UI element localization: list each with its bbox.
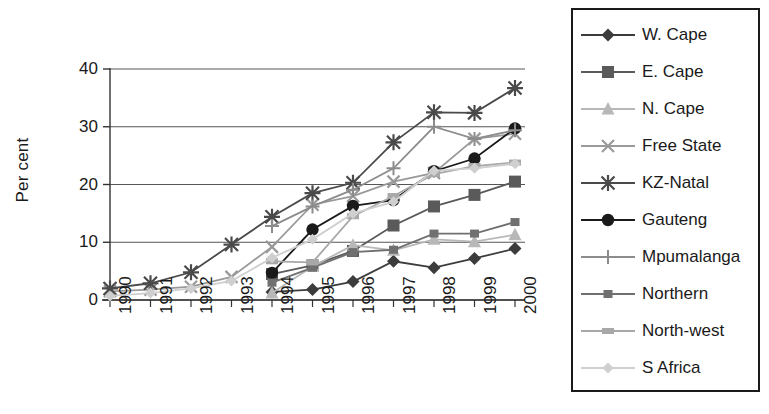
data-point-marker [602,328,614,334]
legend-item-label: Northern [637,284,708,304]
y-tick-label: 20 [54,176,98,193]
legend-marker-icon [579,247,637,267]
y-tick-label: 10 [54,233,98,250]
plot-area: Per cent 010203040 199019911992199319941… [0,0,556,414]
legend-item-free-state[interactable]: Free State [573,127,758,164]
data-point-marker [468,252,481,265]
x-tick-label: 1998 [441,276,458,314]
legend-item-label: W. Cape [637,25,707,45]
x-tick-label: 1991 [158,276,175,314]
legend-item-n-cape[interactable]: N. Cape [573,90,758,127]
x-tick-label: 1994 [279,276,296,314]
data-point-marker [470,230,479,238]
data-point-marker [507,80,523,96]
legend-marker-icon [579,321,637,341]
data-point-marker [600,175,616,191]
legend-item-w-cape[interactable]: W. Cape [573,16,758,53]
legend-item-label: KZ-Natal [637,173,709,193]
legend-item-label: Gauteng [637,210,707,230]
legend-marker-icon [579,358,637,378]
legend-item-label: S Africa [637,358,701,378]
data-point-marker [509,242,522,255]
y-tick-label: 0 [54,291,98,308]
legend-item-northern[interactable]: Northern [573,275,758,312]
data-point-marker [509,176,521,188]
data-point-marker [268,279,277,287]
chart-legend: W. CapeE. CapeN. CapeFree StateKZ-NatalG… [571,8,760,392]
data-point-marker [306,283,319,296]
legend-marker-icon [579,173,637,193]
legend-item-label: E. Cape [637,62,703,82]
legend-item-mpumalanga[interactable]: Mpumalanga [573,238,758,275]
data-point-marker [604,290,613,298]
data-point-marker [349,248,358,256]
x-tick-label: 1993 [239,276,256,314]
data-point-marker [428,261,441,274]
y-axis-title: Per cent [13,100,33,240]
legend-marker-icon [579,99,637,119]
legend-item-s-africa[interactable]: S Africa [573,349,758,386]
data-point-marker [603,362,614,373]
data-point-marker [467,105,483,121]
data-point-marker [305,185,321,201]
data-point-marker [307,259,319,265]
data-point-marker [430,230,439,238]
data-point-marker [186,283,197,294]
legend-marker-icon [579,136,637,156]
legend-item-kz-natal[interactable]: KZ-Natal [573,164,758,201]
data-point-marker [266,267,278,279]
x-tick-label: 1992 [198,276,215,314]
data-point-marker [428,200,440,212]
data-point-marker [511,218,520,226]
data-point-marker [307,234,318,245]
data-point-marker [306,199,320,213]
legend-marker-icon [579,284,637,304]
legend-item-label: Mpumalanga [637,247,740,267]
data-point-marker [602,213,614,225]
legend-marker-icon [579,25,637,45]
data-point-marker [601,250,615,264]
legend-item-gauteng[interactable]: Gauteng [573,201,758,238]
legend-item-label: North-west [637,321,724,341]
chart-figure: Per cent 010203040 199019911992199319941… [0,0,769,414]
x-tick-label: 1997 [401,276,418,314]
x-tick-label: 1996 [360,276,377,314]
data-point-marker [509,228,522,241]
legend-marker-icon [579,62,637,82]
data-point-marker [469,189,481,201]
legend-item-label: Free State [637,136,721,156]
legend-item-label: N. Cape [637,99,704,119]
x-tick-label: 2000 [522,276,539,314]
data-point-marker [426,104,442,120]
legend-item-e-cape[interactable]: E. Cape [573,53,758,90]
x-tick-label: 1990 [117,276,134,314]
data-point-marker [602,66,614,78]
data-point-marker [387,255,400,268]
x-tick-label: 1995 [320,276,337,314]
x-tick-label: 1999 [482,276,499,314]
data-point-marker [224,237,240,253]
y-tick-label: 30 [54,118,98,135]
data-point-marker [388,220,400,232]
data-point-marker [602,28,615,41]
y-tick-label: 40 [54,60,98,77]
legend-item-north-west[interactable]: North-west [573,312,758,349]
data-point-marker [347,275,360,288]
data-point-marker [386,134,402,150]
data-point-marker [389,246,398,254]
legend-marker-icon [579,210,637,230]
